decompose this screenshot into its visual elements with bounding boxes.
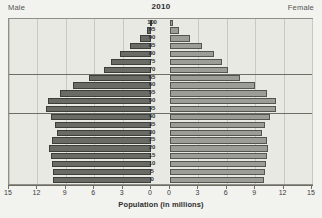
x-tick-label-male-0: 0: [141, 189, 159, 196]
female-bar-age-0: [170, 177, 264, 183]
female-bar-age-90: [170, 35, 190, 41]
male-bar-age-15: [51, 153, 151, 159]
age-label-15: 15: [142, 152, 162, 160]
age-label-45: 45: [142, 105, 162, 113]
male-bar-age-50: [48, 98, 151, 104]
female-side-label: Female: [288, 3, 314, 12]
female-bar-age-40: [170, 114, 270, 120]
male-bar-age-0: [53, 177, 151, 183]
x-tick-label-male-6: 6: [84, 189, 102, 196]
age-label-50: 50: [142, 97, 162, 105]
male-bar-age-30: [57, 130, 151, 136]
female-bar-age-25: [170, 137, 267, 143]
age-label-55: 55: [142, 89, 162, 97]
male-bar-age-45: [46, 106, 151, 112]
age-label-90: 90: [142, 34, 162, 42]
female-bar-age-85: [170, 43, 202, 49]
x-tick-label-male-15: 15: [0, 189, 17, 196]
chart-header: Male 2010 Female: [0, 0, 322, 18]
age-label-20: 20: [142, 144, 162, 152]
female-bar-age-5: [170, 169, 265, 175]
age-label-75: 75: [142, 58, 162, 66]
x-tick-label-female-15: 15: [302, 189, 320, 196]
age-label-30: 30: [142, 129, 162, 137]
female-bar-age-10: [170, 161, 266, 167]
x-tick-label-female-9: 9: [245, 189, 263, 196]
female-bar-age-55: [170, 90, 267, 96]
x-tick-label-female-3: 3: [188, 189, 206, 196]
male-bar-age-40: [51, 114, 151, 120]
age-label-10: 10: [142, 160, 162, 168]
female-bar-age-80: [170, 51, 214, 57]
age-axis-labels: 1009590858075706560555045403530252015105…: [142, 18, 162, 185]
male-bar-age-10: [52, 161, 151, 167]
age-label-60: 60: [142, 81, 162, 89]
gridline-female-15: [312, 19, 313, 184]
female-bar-age-100: [170, 20, 173, 26]
x-tick-label-female-0: 0: [160, 189, 178, 196]
female-bar-age-20: [170, 145, 268, 151]
male-bar-age-5: [53, 169, 151, 175]
x-tick-label-male-9: 9: [56, 189, 74, 196]
age-label-0: 0: [142, 176, 162, 184]
x-axis: 1512963003691215: [8, 185, 313, 197]
male-bar-age-35: [55, 122, 151, 128]
male-bar-age-25: [52, 137, 151, 143]
x-tick-label-female-6: 6: [217, 189, 235, 196]
x-tick-label-male-3: 3: [113, 189, 131, 196]
chart-year-title: 2010: [0, 2, 322, 11]
female-bar-age-30: [170, 130, 262, 136]
female-bar-age-45: [170, 106, 276, 112]
age-label-70: 70: [142, 66, 162, 74]
female-bar-age-75: [170, 59, 222, 65]
age-label-5: 5: [142, 168, 162, 176]
female-bar-age-65: [170, 75, 240, 81]
population-pyramid-chart: Male 2010 Female 10095908580757065605550…: [0, 0, 322, 218]
female-bar-age-70: [170, 67, 228, 73]
x-tick-label-female-12: 12: [274, 189, 292, 196]
female-bar-age-35: [170, 122, 265, 128]
age-label-100: 100: [142, 19, 162, 27]
age-label-40: 40: [142, 113, 162, 121]
age-label-80: 80: [142, 50, 162, 58]
female-bar-age-50: [170, 98, 276, 104]
age-label-65: 65: [142, 74, 162, 82]
male-bar-age-20: [49, 145, 151, 151]
age-label-35: 35: [142, 121, 162, 129]
x-axis-line: [8, 185, 313, 186]
age-label-85: 85: [142, 42, 162, 50]
age-label-25: 25: [142, 136, 162, 144]
female-bar-age-60: [170, 82, 255, 88]
male-bar-age-60: [73, 82, 151, 88]
x-tick-label-male-12: 12: [27, 189, 45, 196]
female-bar-age-95: [170, 27, 179, 33]
age-label-95: 95: [142, 26, 162, 34]
male-bar-age-55: [60, 90, 151, 96]
x-axis-title: Population (in millions): [0, 200, 322, 209]
female-bar-age-15: [170, 153, 267, 159]
